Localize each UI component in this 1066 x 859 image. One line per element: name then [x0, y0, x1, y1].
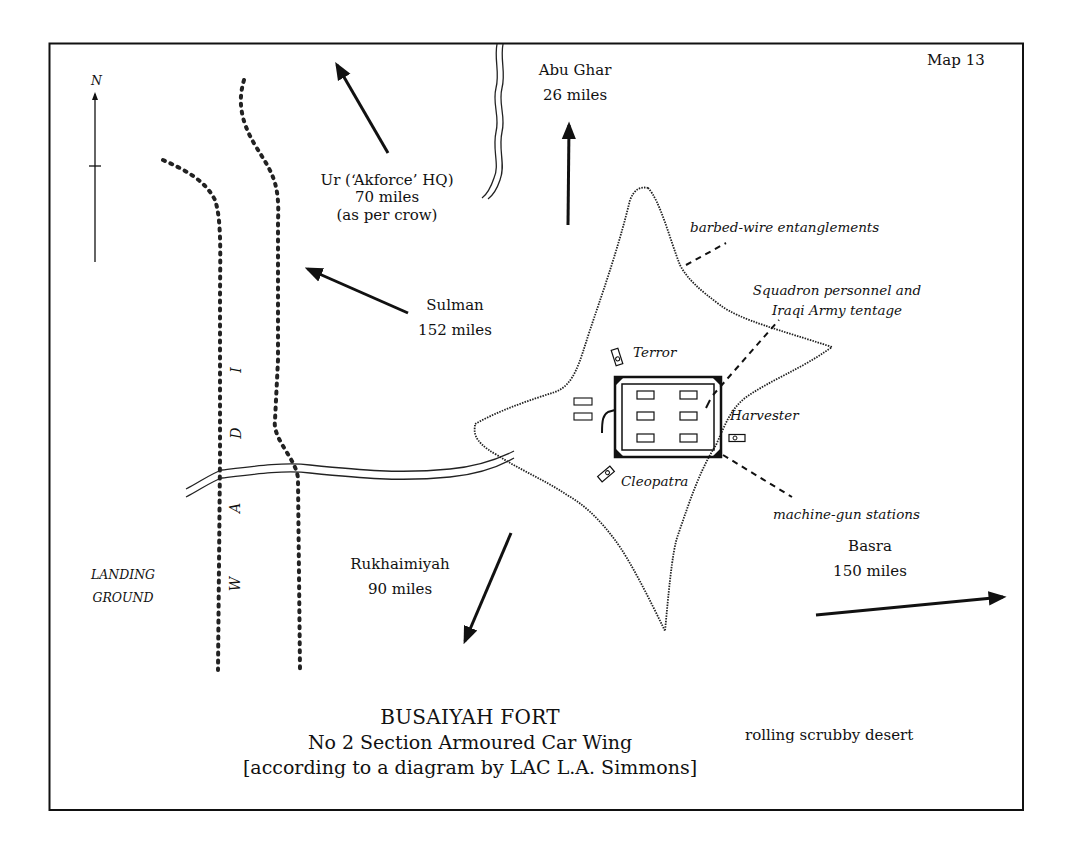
- destination-abu-ghar-name: Abu Ghar: [525, 62, 625, 79]
- arrow-ur-icon: [337, 65, 388, 153]
- frame-outline: [50, 44, 1024, 811]
- destination-ur-distance: 70 miles: [292, 189, 482, 206]
- terrain-desert-label: rolling scrubby desert: [745, 727, 913, 744]
- barbed-wire-annotation: barbed-wire entanglements: [690, 220, 879, 236]
- map-title-block: BUSAIYAH FORT No 2 Section Armoured Car …: [200, 706, 740, 779]
- machine-gun-annotation: machine-gun stations: [773, 507, 920, 523]
- landing-ground-line2: GROUND: [78, 591, 168, 605]
- road: [186, 451, 514, 497]
- destination-basra: Basra 150 miles: [815, 538, 925, 581]
- destination-ur: Ur (‘Akforce’ HQ) 70 miles (as per crow): [292, 172, 482, 224]
- destination-ur-name: Ur (‘Akforce’ HQ): [292, 172, 482, 189]
- vehicle-harvester-label: Harvester: [730, 408, 799, 424]
- frame: [50, 44, 974, 312]
- destination-abu-ghar: Abu Ghar 26 miles: [525, 62, 625, 105]
- arrow-abu-ghar-icon: [568, 125, 569, 225]
- map-attribution: [according to a diagram by LAC L.A. Simm…: [200, 757, 740, 779]
- fort-compound: [602, 377, 721, 457]
- destination-sulman-name: Sulman: [400, 297, 510, 314]
- destination-abu-ghar-distance: 26 miles: [525, 87, 625, 104]
- vehicle-terror-label: Terror: [633, 345, 676, 361]
- destination-basra-distance: 150 miles: [815, 563, 925, 580]
- landing-ground-line1: LANDING: [78, 568, 168, 582]
- destination-sulman: Sulman 152 miles: [400, 297, 510, 340]
- destination-sulman-distance: 152 miles: [400, 322, 510, 339]
- armoured-car-harvester-icon: [729, 435, 745, 442]
- vehicle-cleopatra-label: Cleopatra: [621, 474, 688, 490]
- destination-ur-note: (as per crow): [292, 207, 482, 224]
- north-arrow-icon: [89, 92, 101, 262]
- tents: [637, 391, 697, 442]
- wadi-letter-i: I: [228, 367, 244, 373]
- north-label: N: [91, 74, 102, 88]
- map-number-label: Map 13: [927, 52, 985, 69]
- wadi-letter-w: W: [227, 577, 243, 591]
- arrow-sulman-icon: [308, 269, 408, 313]
- destination-rukhaimiyah: Rukhaimiyah 90 miles: [330, 556, 470, 599]
- wadi-letter-a: A: [227, 503, 243, 513]
- tentage-annotation-line1: Squadron personnel and: [732, 283, 942, 299]
- river: [482, 44, 503, 199]
- map-outer-border: [50, 44, 975, 312]
- destination-basra-name: Basra: [815, 538, 925, 555]
- map-frame: [50, 44, 974, 311]
- destination-rukhaimiyah-name: Rukhaimiyah: [330, 556, 470, 573]
- landing-ground-label: LANDING GROUND: [78, 568, 168, 606]
- tentage-annotation: Squadron personnel and Iraqi Army tentag…: [732, 283, 942, 318]
- armoured-car-cleopatra-icon: [598, 466, 615, 482]
- arrow-rukhaimiyah-icon: [465, 533, 511, 641]
- wadi-letter-d: D: [228, 427, 244, 438]
- map-subtitle: No 2 Section Armoured Car Wing: [200, 732, 740, 754]
- destination-rukhaimiyah-distance: 90 miles: [330, 581, 470, 598]
- map-title: BUSAIYAH FORT: [200, 706, 740, 729]
- arrow-basra-icon: [816, 597, 1003, 615]
- armoured-car-terror-icon: [611, 348, 623, 365]
- tentage-annotation-line2: Iraqi Army tentage: [732, 303, 942, 319]
- wireless-stations: [574, 398, 592, 420]
- map-border: [50, 44, 974, 312]
